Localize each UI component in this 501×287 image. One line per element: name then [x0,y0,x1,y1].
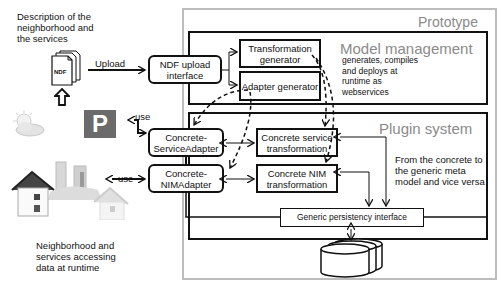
document-stack-icon: NDF [51,50,79,84]
ndf-file-label: NDF [54,69,66,75]
use-label-1: use [135,111,150,122]
generic-persistency-interface[interactable]: Generic persistency interface [280,208,424,227]
model-management-note: generates, compiles and deploys at runti… [342,55,422,97]
ndf-upload-interface[interactable]: NDF upload interface [148,55,222,84]
concrete-nim-transformation[interactable]: Concrete NIM transformation [256,164,338,193]
concrete-service-transformation[interactable]: Concrete service transformation [256,128,338,157]
bottom-caption: Neighborhood and services accessing data… [36,240,126,273]
adapter-generator[interactable]: Adapter generator [239,71,321,101]
concrete-nim-adapter[interactable]: Concrete-NIMAdapter [148,164,224,193]
concrete-service-adapter[interactable]: Concrete-ServiceAdapter [148,128,224,157]
plugin-system-note: From the concrete to the generic meta mo… [395,154,485,187]
upload-label: Upload [95,58,125,69]
prototype-title: Prototype [418,14,478,30]
transformation-generator[interactable]: Transformation generator [239,39,321,68]
parking-icon: P [84,110,116,138]
plugin-system-title: Plugin system [379,121,472,137]
description-text: Description of the neighborhood and the … [17,11,97,44]
